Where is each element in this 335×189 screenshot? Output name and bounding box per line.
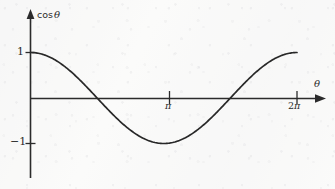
x-tick-label-pi: π — [165, 101, 171, 111]
x-axis-arrowhead — [315, 94, 326, 102]
y-axis-label-text: cos — [37, 9, 53, 20]
x-tick-label-two-pi: 2π — [288, 101, 300, 111]
x-axis-label: θ — [314, 79, 320, 89]
y-axis-arrowhead — [27, 9, 35, 19]
x-tick-label-two-pi-symbol: π — [294, 100, 300, 111]
plot-canvas — [0, 0, 335, 189]
y-axis-label: cosθ — [37, 10, 60, 20]
y-tick-label-negative-one: −1 — [10, 136, 26, 147]
cosine-function-figure: cosθ θ 1 −1 π 2π — [0, 0, 335, 189]
y-tick-label-positive-one: 1 — [17, 46, 24, 57]
y-axis-label-variable: θ — [53, 9, 60, 20]
